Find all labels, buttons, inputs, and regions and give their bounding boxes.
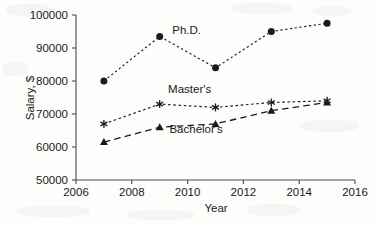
data-point-marker	[268, 28, 275, 35]
y-tick-label: 90000	[36, 42, 68, 54]
y-axis-title: Salary, $	[24, 75, 36, 120]
x-axis-title: Year	[204, 202, 227, 214]
x-tick-group: 200620082010201220142016	[63, 180, 368, 198]
y-tick-label: 60000	[36, 141, 68, 153]
y-axis: 5000060000700008000090000100000	[30, 9, 76, 186]
y-tick-label: 80000	[36, 75, 68, 87]
series-ph-d	[100, 20, 330, 85]
x-axis: 200620082010201220142016	[63, 180, 368, 198]
data-point-marker	[324, 20, 331, 27]
x-tick-label: 2012	[231, 186, 257, 198]
x-tick-label: 2008	[119, 186, 145, 198]
chart-container: Salary, $ Year 5000060000700008000090000…	[0, 0, 377, 227]
data-point-marker	[100, 78, 107, 85]
x-tick-label: 2014	[286, 186, 312, 198]
x-tick-label: 2010	[175, 186, 201, 198]
series-label-bachelor-s: Bachelor's	[169, 123, 223, 135]
data-point-marker	[100, 120, 107, 128]
x-tick-label: 2006	[63, 186, 89, 198]
data-point-marker	[212, 103, 219, 111]
y-tick-group: 5000060000700008000090000100000	[30, 9, 76, 186]
series-label-ph-d: Ph.D.	[172, 24, 201, 36]
data-point-marker	[156, 100, 163, 108]
chart-svg: Salary, $ Year 5000060000700008000090000…	[0, 0, 377, 227]
series-label-group: Ph.D.Master'sBachelor's	[168, 24, 223, 135]
series-label-master-s: Master's	[168, 83, 211, 95]
y-tick-label: 100000	[30, 9, 68, 21]
series-line	[104, 23, 327, 81]
data-point-marker	[212, 64, 219, 71]
data-point-marker	[156, 123, 164, 130]
x-tick-label: 2016	[342, 186, 368, 198]
data-point-marker	[156, 33, 163, 40]
y-tick-label: 70000	[36, 108, 68, 120]
y-tick-label: 50000	[36, 174, 68, 186]
